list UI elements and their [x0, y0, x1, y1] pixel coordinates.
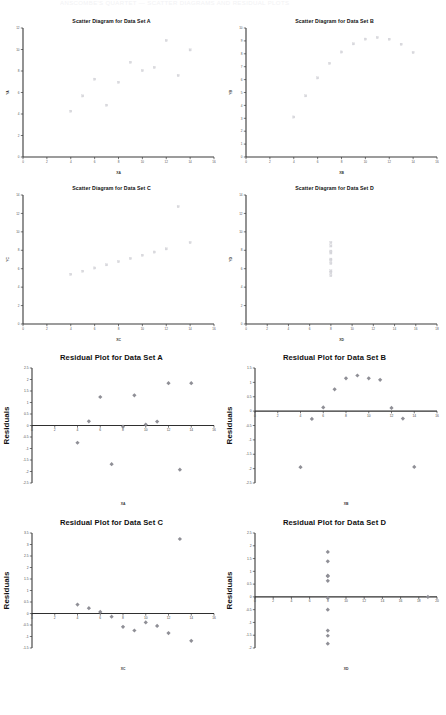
- svg-text:14: 14: [189, 616, 193, 620]
- svg-text:3: 3: [241, 117, 243, 121]
- data-point: [328, 62, 330, 64]
- data-point: [412, 51, 414, 53]
- svg-text:6: 6: [18, 267, 20, 271]
- data-point: [117, 261, 119, 263]
- svg-text:-0.5: -0.5: [246, 608, 252, 612]
- data-point: [412, 465, 416, 469]
- svg-text:16: 16: [212, 327, 216, 331]
- chart-canvas: 024681012140246810121416XCYC: [0, 181, 223, 348]
- svg-text:0.5: 0.5: [247, 395, 252, 399]
- svg-text:YC: YC: [6, 257, 10, 262]
- data-point: [305, 95, 307, 97]
- data-point: [153, 251, 155, 253]
- svg-text:0: 0: [245, 327, 247, 331]
- chart-row-1: Scatter Diagram for Data Set A 024681012…: [0, 14, 446, 181]
- svg-text:0: 0: [250, 409, 252, 413]
- svg-text:8: 8: [345, 414, 347, 418]
- svg-text:XB: XB: [344, 502, 349, 506]
- svg-text:4: 4: [18, 285, 20, 289]
- chart-row-2: Scatter Diagram for Data Set C 024681012…: [0, 181, 446, 348]
- svg-text:10: 10: [367, 414, 371, 418]
- svg-text:0: 0: [27, 424, 29, 428]
- svg-text:-0.5: -0.5: [23, 435, 29, 439]
- svg-text:14: 14: [189, 428, 193, 432]
- chart-canvas: -1.5-1-0.500.511.522.533.50246810121416X…: [0, 513, 223, 678]
- data-point: [378, 378, 382, 382]
- cell-residual-c: Residual Plot for Data Set C -1.5-1-0.50…: [0, 513, 223, 678]
- svg-text:YD: YD: [229, 257, 233, 262]
- data-point: [330, 241, 332, 243]
- svg-text:6: 6: [309, 599, 311, 603]
- svg-text:14: 14: [188, 160, 192, 164]
- svg-text:12: 12: [167, 616, 171, 620]
- data-point: [321, 405, 325, 409]
- svg-text:8: 8: [330, 327, 332, 331]
- svg-text:6: 6: [322, 414, 324, 418]
- svg-text:6: 6: [99, 428, 101, 432]
- svg-text:10: 10: [239, 26, 243, 30]
- plot-area: 02468101214024681012141618XDYD: [223, 181, 446, 348]
- cell-scatter-d: Scatter Diagram for Data Set D 024681012…: [223, 181, 446, 348]
- svg-text:16: 16: [435, 160, 439, 164]
- svg-text:8: 8: [118, 160, 120, 164]
- svg-text:-1: -1: [249, 621, 252, 625]
- chart-scatter-b: Scatter Diagram for Data Set B 012345678…: [223, 14, 446, 181]
- svg-text:6: 6: [309, 327, 311, 331]
- svg-text:0: 0: [250, 595, 252, 599]
- data-point: [105, 264, 107, 266]
- data-point: [326, 579, 330, 583]
- data-point: [144, 620, 148, 624]
- data-point: [330, 245, 332, 247]
- svg-text:8: 8: [341, 160, 343, 164]
- data-point: [340, 51, 342, 53]
- svg-text:8: 8: [118, 327, 120, 331]
- svg-text:10: 10: [344, 599, 348, 603]
- cell-scatter-c: Scatter Diagram for Data Set C 024681012…: [0, 181, 223, 348]
- svg-text:-1: -1: [26, 635, 29, 639]
- svg-text:6: 6: [99, 616, 101, 620]
- chart-canvas: 0123456789100246810121416XBYB: [223, 14, 446, 181]
- data-point: [400, 43, 402, 45]
- data-point: [326, 574, 330, 578]
- svg-text:4: 4: [70, 327, 72, 331]
- data-point: [189, 381, 193, 385]
- data-point: [75, 441, 79, 445]
- svg-text:XB: XB: [339, 171, 344, 175]
- svg-text:2: 2: [46, 327, 48, 331]
- data-point: [330, 262, 332, 264]
- chart-row-4: Residual Plot for Data Set C -1.5-1-0.50…: [0, 513, 446, 678]
- svg-text:8: 8: [122, 616, 124, 620]
- svg-text:2: 2: [241, 129, 243, 133]
- svg-text:4: 4: [241, 104, 243, 108]
- data-point: [94, 78, 96, 80]
- data-point: [98, 395, 102, 399]
- svg-text:2: 2: [27, 378, 29, 382]
- svg-text:0: 0: [254, 414, 256, 418]
- svg-text:2: 2: [54, 428, 56, 432]
- svg-text:14: 14: [411, 160, 415, 164]
- svg-text:4: 4: [77, 616, 79, 620]
- svg-text:12: 12: [16, 26, 20, 30]
- data-point: [388, 38, 390, 40]
- chart-scatter-a: Scatter Diagram for Data Set A 024681012…: [0, 14, 223, 181]
- svg-text:10: 10: [16, 48, 20, 52]
- data-point: [177, 74, 179, 76]
- data-point: [70, 273, 72, 275]
- chart-residual-a: Residual Plot for Data Set A -2.5-2-1.5-…: [0, 348, 223, 513]
- data-point: [165, 248, 167, 250]
- svg-text:-1: -1: [26, 447, 29, 451]
- svg-text:Residuals: Residuals: [2, 571, 11, 609]
- chart-row-3: Residual Plot for Data Set A -2.5-2-1.5-…: [0, 348, 446, 513]
- cell-residual-a: Residual Plot for Data Set A -2.5-2-1.5-…: [0, 348, 223, 513]
- data-point: [132, 628, 136, 632]
- data-point: [94, 267, 96, 269]
- data-point: [110, 462, 114, 466]
- plot-area: 024681012140246810121416XCYC: [0, 181, 223, 348]
- plot-area: -1.5-1-0.500.511.522.533.50246810121416X…: [0, 513, 223, 678]
- svg-text:-1.5: -1.5: [23, 646, 29, 650]
- data-point: [330, 275, 332, 277]
- data-point: [326, 634, 330, 638]
- data-point: [355, 373, 359, 377]
- svg-text:1.5: 1.5: [247, 557, 252, 561]
- data-point: [132, 393, 136, 397]
